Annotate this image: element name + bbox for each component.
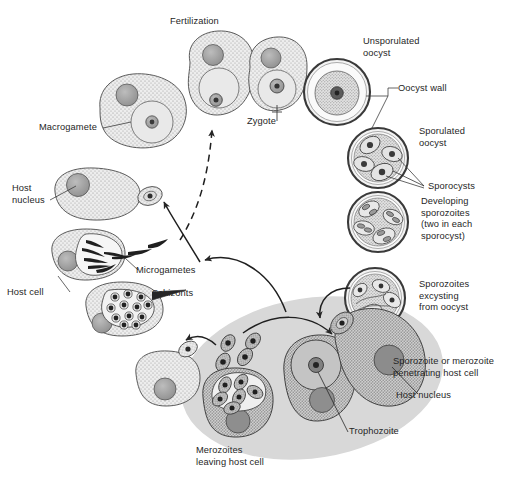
arrow-merogony-to-gamogony [205,258,286,312]
life-cycle-diagram: Fertilization Macrogamete Zygote Unsporu… [0,0,527,483]
label-host-cell: Host cell [7,287,44,299]
label-sporulated-oocyst: Sporulated oocyst [419,126,465,149]
unsporulated-oocyst [304,59,398,128]
sporulated-oocyst [348,128,424,188]
zygote-cell [249,37,307,121]
macrogamete-cell [100,74,187,148]
label-zygote: Zygote [247,116,276,128]
developing-sporozoites-oocyst [348,192,408,252]
arrow-fertilization [180,130,212,240]
merozoites-leaving-cell [203,368,273,437]
host-cell-upper-left [50,168,165,220]
label-unsporulated-oocyst: Unsporulated oocyst [363,36,420,59]
label-trophozoite: Trophozoite [349,426,399,438]
label-host-nucleus-left: Host nucleus [12,183,45,206]
label-sporozoite-penetrating: Sporozoite or merozoite penetrating host… [393,356,494,379]
label-microgametes: Microgametes [136,265,196,277]
host-nucleus-trophozoite-cell [310,388,335,413]
label-developing-sporozoites: Developing sporozoites (two in each spor… [421,196,472,242]
label-sporocysts: Sporocysts [428,181,475,193]
label-macrogamete: Macrogamete [39,122,97,134]
host-nucleus-upper [67,174,90,197]
label-host-nucleus-right: Host nucleus [396,390,451,402]
released-merozoite-cell [136,338,200,406]
arrow-to-host-cell [164,202,200,262]
label-schizonts: Schizonts [152,288,193,300]
fertilization-cell [188,31,254,115]
macrogamete-outer-nucleus [116,84,138,106]
label-merozoites-leaving: Merozoites leaving host cell [196,445,264,468]
label-oocyst-wall: Oocyst wall [398,83,447,95]
free-microgametes [128,239,168,255]
label-fertilization: Fertilization [170,16,219,28]
fertilization-host-nucleus [203,45,224,66]
label-sporozoites-excysting: Sporozoites excysting from oocyst [419,279,469,314]
